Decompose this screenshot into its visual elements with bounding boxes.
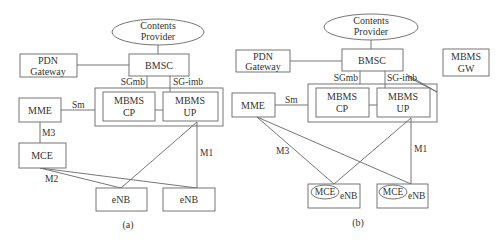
mbms-cp-a-line2: CP (123, 107, 136, 118)
link-up-enb1-b (334, 118, 411, 184)
link-m3-enb1-b (257, 117, 334, 184)
diagram-a: Contents Provider PDN Gateway BMSC SGmb … (19, 19, 223, 231)
mbms-up-a-line2: UP (184, 107, 197, 118)
m2-label-a: M2 (45, 174, 58, 184)
mme-a-label: MME (28, 105, 52, 116)
enb1-a-label: eNB (112, 194, 131, 205)
m3-label-b: M3 (276, 146, 289, 156)
m1-label-a: M1 (200, 148, 213, 158)
enb1-mce-b-label: MCE (315, 187, 336, 197)
link-m2-enb2-a (40, 168, 197, 188)
mbms-up-b-line1: MBMS (388, 91, 418, 102)
mme-b-label: MME (241, 100, 265, 111)
caption-b: (b) (352, 217, 364, 229)
contents-provider-a-line2: Provider (141, 31, 176, 42)
bmsc-b-label: BMSC (358, 55, 386, 66)
contents-provider-b-line2: Provider (354, 26, 389, 37)
mce-a-label: MCE (31, 150, 53, 161)
m1-label-b: M1 (414, 144, 427, 154)
enb2-a-label: eNB (180, 194, 199, 205)
caption-a: (a) (122, 219, 133, 231)
sgmb-label-a: SGmb (121, 77, 146, 87)
mbms-up-b-line2: UP (397, 103, 410, 114)
enb2-b-label: eNB (408, 191, 425, 201)
enb2-mce-b-label: MCE (383, 187, 404, 197)
mbms-gw-b-line2: GW (458, 63, 475, 74)
sgmb-label-b: SGmb (334, 73, 359, 83)
link-up-enb1-a (121, 122, 197, 188)
sgimb-label-a: SG-imb (173, 77, 203, 87)
sgimb-label-b: SG-imb (387, 73, 417, 83)
enb1-b-label: eNB (340, 191, 357, 201)
diagram-b: Contents Provider PDN Gateway BMSC MBMS … (232, 14, 489, 229)
mbms-cp-a-line1: MBMS (114, 95, 144, 106)
bmsc-a-label: BMSC (145, 60, 173, 71)
contents-provider-b-line1: Contents (353, 15, 389, 26)
mbms-up-a-line1: MBMS (175, 95, 205, 106)
sm-label-a: Sm (72, 100, 85, 110)
m3-label-a: M3 (42, 128, 55, 138)
sm-label-b: Sm (285, 95, 298, 105)
mbms-gw-b-line1: MBMS (451, 51, 481, 62)
mbms-cp-b-line2: CP (336, 103, 349, 114)
pdn-gateway-b-line2: Gateway (245, 61, 281, 72)
pdn-gateway-a-line2: Gateway (30, 66, 66, 77)
pdn-gateway-a-line1: PDN (38, 55, 58, 66)
contents-provider-a-line1: Contents (140, 20, 176, 31)
mbms-cp-b-line1: MBMS (327, 91, 357, 102)
